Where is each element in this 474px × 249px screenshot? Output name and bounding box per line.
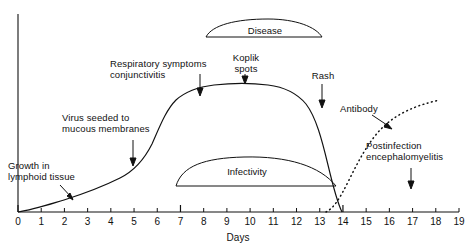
x-axis-tick-label: 15: [361, 216, 372, 227]
x-axis-tick-label: 3: [85, 216, 91, 227]
annotation-rash: Rash: [304, 70, 342, 81]
x-axis-tick-label: 8: [201, 216, 207, 227]
x-axis-tick-label: 18: [430, 216, 441, 227]
annotation-koplik-spots: Koplik spots: [222, 52, 270, 74]
x-axis-tick-label: 13: [314, 216, 325, 227]
x-axis-tick-label: 4: [108, 216, 114, 227]
x-axis-tick-label: 2: [62, 216, 68, 227]
band-label-disease: Disease: [248, 25, 282, 36]
annotation-virus-seeded-to-mucous-membranes: Virus seeded to mucous membranes: [62, 112, 192, 134]
annotation-antibody: Antibody: [340, 103, 400, 114]
x-axis-tick-label: 12: [291, 216, 302, 227]
x-axis-tick-label: 17: [407, 216, 418, 227]
x-axis-tick-label: 0: [15, 216, 21, 227]
x-axis-tick-label: 9: [224, 216, 230, 227]
annotation-postinfection-encephalomyelitis: Postinfection encephalomyelitis: [366, 140, 474, 162]
x-axis-tick-label: 5: [131, 216, 137, 227]
x-axis-tick-label: 16: [384, 216, 395, 227]
band-label-infectivity: Infectivity: [227, 166, 267, 177]
x-axis-title: Days: [227, 232, 250, 243]
x-axis-tick-label: 10: [245, 216, 256, 227]
x-axis-tick-label: 6: [154, 216, 160, 227]
x-axis-tick-label: 1: [38, 216, 44, 227]
annotation-growth-in-lymphoid-tissue: Growth in lymphoid tissue: [8, 160, 104, 182]
x-axis-tick-label: 14: [337, 216, 348, 227]
x-axis-tick-label: 19: [453, 216, 464, 227]
measles-disease-progression-figure: Growth in lymphoid tissue Virus seeded t…: [0, 0, 474, 249]
x-axis-ticks: [18, 205, 459, 212]
x-axis-tick-label: 11: [268, 216, 278, 227]
x-axis-tick-label: 7: [178, 216, 184, 227]
